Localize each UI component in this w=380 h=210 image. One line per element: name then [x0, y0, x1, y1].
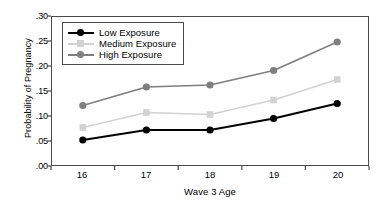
legend-label-low-exposure: Low Exposure [99, 27, 160, 38]
data-point [80, 124, 87, 131]
data-point [270, 67, 277, 74]
data-point [143, 109, 150, 116]
series-line-low-exposure [83, 104, 337, 141]
data-point [334, 76, 341, 83]
legend-marker-low-exposure [68, 27, 94, 38]
legend-item-medium-exposure: Medium Exposure [68, 38, 176, 49]
chart-legend: Low Exposure Medium Exposure High Exposu… [62, 22, 184, 65]
legend-label-high-exposure: High Exposure [99, 49, 162, 60]
data-point [206, 81, 213, 88]
data-point [143, 126, 150, 133]
legend-marker-medium-exposure [68, 38, 94, 49]
data-point [79, 136, 86, 143]
legend-marker-high-exposure [68, 49, 94, 60]
data-point [334, 100, 341, 107]
data-point [207, 111, 214, 118]
data-point [270, 97, 277, 104]
data-point [143, 83, 150, 90]
data-point [79, 102, 86, 109]
data-point [334, 38, 341, 45]
legend-label-medium-exposure: Medium Exposure [99, 38, 176, 49]
chart-canvas [0, 0, 380, 210]
legend-item-high-exposure: High Exposure [68, 49, 176, 60]
pregnancy-probability-chart: Probability of Pregnancy Wave 3 Age .30 … [0, 0, 380, 210]
data-point [206, 126, 213, 133]
data-point [270, 115, 277, 122]
legend-item-low-exposure: Low Exposure [68, 27, 176, 38]
